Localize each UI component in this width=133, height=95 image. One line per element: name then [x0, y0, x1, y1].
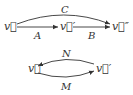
- commutative-diagrams: v⃗ v⃗′ v⃗″ A B C v⃗ v⃗′ N M: [0, 0, 133, 95]
- label-n: N: [61, 48, 72, 59]
- label-b: B: [87, 30, 95, 41]
- label-m: M: [60, 81, 72, 92]
- node-v-double-prime: v⃗″: [112, 20, 130, 33]
- label-c: C: [61, 4, 69, 15]
- diagram-top: v⃗ v⃗′ v⃗″ A B C: [4, 4, 130, 41]
- node-v-prime-bottom: v⃗′: [96, 62, 112, 75]
- label-a: A: [33, 30, 41, 41]
- node-v: v⃗: [4, 20, 17, 33]
- edge-m: [38, 71, 94, 77]
- node-v-prime: v⃗′: [60, 20, 76, 33]
- diagram-bottom: v⃗ v⃗′ N M: [28, 48, 112, 92]
- edge-n: [38, 59, 94, 66]
